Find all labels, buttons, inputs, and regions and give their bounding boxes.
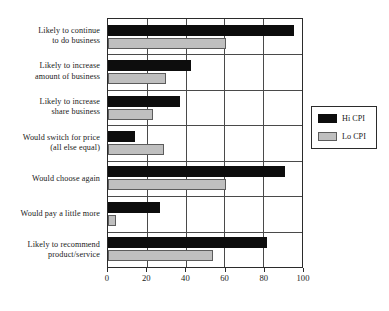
x-axis: 020406080100 <box>107 268 303 292</box>
bar-groups <box>108 19 302 267</box>
bar-group <box>108 19 302 54</box>
bar-chart: Likely to continueto do businessLikely t… <box>0 0 389 311</box>
bar-hi-cpi <box>108 25 294 36</box>
category-label-line: amount of business <box>35 72 100 82</box>
bar-lo-cpi <box>108 109 153 120</box>
legend-swatch-lo-cpi <box>318 132 337 141</box>
category-label-line: Would choose again <box>32 174 100 184</box>
x-tick-label: 100 <box>297 273 310 283</box>
bar-lo-cpi <box>108 215 116 226</box>
bar-hi-cpi <box>108 96 180 107</box>
category-axis-labels: Likely to continueto do businessLikely t… <box>0 18 104 268</box>
bar-group <box>108 90 302 125</box>
bar-group <box>108 232 302 267</box>
x-tick-mark <box>146 268 147 272</box>
x-tick-mark <box>264 268 265 272</box>
legend-item: Hi CPI <box>318 114 370 123</box>
plot-area <box>107 18 303 268</box>
x-tick-mark <box>185 268 186 272</box>
category-label-line: to do business <box>38 36 100 46</box>
legend-swatch-hi-cpi <box>318 114 337 123</box>
bar-hi-cpi <box>108 166 285 177</box>
x-tick-label: 40 <box>181 273 190 283</box>
bar-group <box>108 161 302 196</box>
category-label-line: Would switch for price <box>23 133 100 143</box>
category-label-line: Likely to recommend <box>28 240 100 250</box>
bar-lo-cpi <box>108 179 226 190</box>
x-tick-mark <box>303 268 304 272</box>
bar-hi-cpi <box>108 237 267 248</box>
category-label-line: Likely to continue <box>38 26 100 36</box>
legend: Hi CPILo CPI <box>311 106 377 149</box>
category-label: Likely to recommendproduct/service <box>0 232 104 268</box>
category-label-line: share business <box>40 107 100 117</box>
category-label-line: (all else equal) <box>23 143 100 153</box>
category-label: Likely to continueto do business <box>0 18 104 54</box>
category-label: Would switch for price(all else equal) <box>0 125 104 161</box>
x-tick-label: 20 <box>142 273 151 283</box>
bar-hi-cpi <box>108 202 160 213</box>
x-tick-label: 80 <box>260 273 269 283</box>
category-label: Likely to increaseshare business <box>0 89 104 125</box>
bar-group <box>108 54 302 89</box>
legend-label: Hi CPI <box>342 114 365 123</box>
bar-hi-cpi <box>108 131 135 142</box>
bar-lo-cpi <box>108 250 213 261</box>
bar-hi-cpi <box>108 60 191 71</box>
legend-item: Lo CPI <box>318 132 370 141</box>
category-label: Likely to increaseamount of business <box>0 54 104 90</box>
bar-lo-cpi <box>108 38 226 49</box>
bar-lo-cpi <box>108 144 164 155</box>
bar-group <box>108 125 302 160</box>
category-label: Would pay a little more <box>0 197 104 233</box>
x-tick-mark <box>225 268 226 272</box>
x-tick-label: 60 <box>220 273 229 283</box>
x-tick-mark <box>107 268 108 272</box>
category-label-line: product/service <box>28 250 100 260</box>
bar-lo-cpi <box>108 73 166 84</box>
bar-group <box>108 196 302 231</box>
category-label-line: Would pay a little more <box>21 209 100 219</box>
x-tick-label: 0 <box>105 273 109 283</box>
category-label: Would choose again <box>0 161 104 197</box>
legend-label: Lo CPI <box>342 132 366 141</box>
category-label-line: Likely to increase <box>40 97 100 107</box>
category-label-line: Likely to increase <box>35 61 100 71</box>
